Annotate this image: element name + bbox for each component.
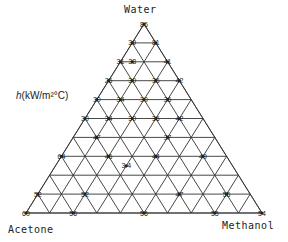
data-point-label: 30 xyxy=(140,96,148,103)
grid-line-left-parallel xyxy=(144,119,203,214)
data-point-label: 30 xyxy=(128,115,136,122)
data-point-label: 30 xyxy=(93,96,101,103)
data-point-label: 31 xyxy=(117,58,125,65)
data-point-label: 56 xyxy=(69,210,77,217)
vertex-label-acetone: Acetone xyxy=(8,224,54,235)
data-point-label: 37 xyxy=(164,134,172,141)
data-point-label: 47 xyxy=(176,191,184,198)
data-point-label: 52 xyxy=(81,191,89,198)
data-point-label: 55 xyxy=(211,210,219,217)
grid-line-right-parallel xyxy=(132,43,238,213)
data-point-label: 41 xyxy=(164,58,172,65)
data-point-label: 52 xyxy=(34,191,42,198)
data-point-label: 39 xyxy=(128,39,136,46)
vertex-label-water: Water xyxy=(124,4,157,15)
data-point-label: 46 xyxy=(105,153,113,160)
data-point-label: 36 xyxy=(152,115,160,122)
quantity-units: (kW/m²°C) xyxy=(22,90,69,101)
data-point-label: 30 xyxy=(81,115,89,122)
ternary-diagram: 8639813138412630364230343036303430364247… xyxy=(0,0,288,242)
grid-line-right-parallel xyxy=(85,119,144,214)
data-point-label: 26 xyxy=(105,77,113,84)
data-point-label: 30 xyxy=(128,77,136,84)
data-point-label: 47 xyxy=(93,134,101,141)
data-point-label: 34 xyxy=(117,96,125,103)
data-point-label: 3.4 xyxy=(121,162,131,169)
data-point-label: 64 xyxy=(58,153,66,160)
data-point-label: 42 xyxy=(176,115,184,122)
data-point-label: 60 xyxy=(22,210,30,217)
data-point-label: 86 xyxy=(140,21,148,28)
grid-line-left-parallel xyxy=(50,43,156,213)
data-point-label: 81 xyxy=(152,39,160,46)
data-point-label: 54 xyxy=(258,210,266,217)
data-point-label: 36 xyxy=(164,96,172,103)
data-point-label: 44 xyxy=(152,153,160,160)
data-point-label: 56 xyxy=(140,210,148,217)
data-point-label: 36 xyxy=(152,77,160,84)
data-point-label: 49 xyxy=(199,153,207,160)
data-point-label: 34 xyxy=(105,115,113,122)
data-point-label: 55 xyxy=(223,191,231,198)
quantity-label: h(kW/m²°C) xyxy=(16,90,68,101)
data-point-label: 38 xyxy=(128,58,136,65)
vertex-label-methanol: Methanol xyxy=(222,220,274,231)
ternary-grid: 8639813138412630364230343036303430364247… xyxy=(0,0,288,242)
grid-line-left-parallel xyxy=(191,156,226,213)
grid-line-right-parallel xyxy=(61,156,96,213)
data-point-label: 42 xyxy=(176,77,184,84)
grid-line-left-parallel xyxy=(238,194,250,213)
